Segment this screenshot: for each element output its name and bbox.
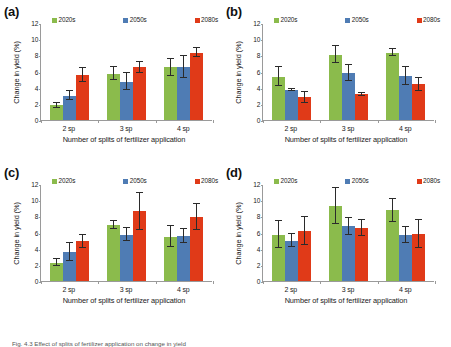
error-bar [170, 226, 171, 247]
legend-item-2050s[interactable]: 2050s [345, 17, 368, 23]
error-bar-cap [402, 242, 409, 243]
legend-label: 2080s [201, 17, 218, 23]
bar-2020s-3sp[interactable] [107, 225, 120, 281]
error-bar-cap [167, 225, 174, 226]
x-axis-tick-labels: 2 sp3 sp4 sp [262, 124, 434, 134]
x-axis-label: Number of splits of fertilizer applicati… [26, 296, 222, 305]
error-bar-cap [193, 229, 200, 230]
bar-slot [386, 185, 399, 281]
bar-slot [164, 24, 177, 120]
bar-groups [41, 185, 212, 281]
error-bar [183, 229, 184, 243]
legend-label: 2020s [59, 17, 76, 23]
legend-item-2050s[interactable]: 2050s [345, 178, 368, 184]
x-axis-label: Number of splits of fertilizer applicati… [248, 135, 444, 144]
bar-slot [412, 185, 425, 281]
bar-slot [355, 185, 368, 281]
error-bar-cap [53, 102, 60, 103]
x-axis-tick-mark [263, 120, 264, 123]
bar-2050s-2sp[interactable] [285, 90, 298, 120]
legend-swatch-icon [417, 179, 422, 184]
x-axis-label: Number of splits of fertilizer applicati… [248, 296, 444, 305]
legend-item-2020s[interactable]: 2020s [274, 178, 297, 184]
bar-groups [263, 24, 434, 120]
error-bar-cap [167, 58, 174, 59]
x-axis-tick-mark [320, 120, 321, 123]
y-axis-tick-label: 0 [257, 118, 261, 125]
legend-swatch-icon [195, 179, 200, 184]
legend-label: 2080s [201, 178, 218, 184]
bar-2080s-3sp[interactable] [355, 94, 368, 120]
error-bar-cap [123, 240, 130, 241]
bar-slot [285, 24, 298, 120]
error-bar-cap [358, 219, 365, 220]
legend-item-2080s[interactable]: 2080s [417, 178, 440, 184]
bar-2020s-3sp[interactable] [329, 55, 342, 120]
bar-slot [298, 24, 311, 120]
bar-slot [133, 185, 146, 281]
figure-container: (a)2020s2050s2080sChange in yield (%)024… [0, 0, 451, 347]
error-bar-cap [301, 216, 308, 217]
error-bar-cap [193, 203, 200, 204]
error-bar [335, 46, 336, 62]
x-axis-tick-label: 4 sp [380, 124, 432, 134]
bar-group-4sp [158, 185, 209, 281]
error-bar [196, 204, 197, 230]
legend-item-2050s[interactable]: 2050s [123, 178, 146, 184]
error-bar [278, 67, 279, 86]
legend-swatch-icon [195, 18, 200, 23]
bar-2050s-3sp[interactable] [120, 235, 133, 281]
error-bar-cap [402, 66, 409, 67]
legend-label: 2050s [130, 17, 147, 23]
bar-2020s-3sp[interactable] [107, 74, 120, 120]
bar-2080s-3sp[interactable] [355, 228, 368, 281]
bar-slot [412, 24, 425, 120]
y-axis-tick-label: 6 [35, 230, 39, 237]
error-bar-cap [180, 55, 187, 56]
y-axis-tick-label: 8 [35, 214, 39, 221]
error-bar-cap [110, 79, 117, 80]
bar-slot [355, 24, 368, 120]
legend-item-2080s[interactable]: 2080s [417, 17, 440, 23]
legend-item-2050s[interactable]: 2050s [123, 17, 146, 23]
error-bar-cap [79, 67, 86, 68]
x-axis-tick-label: 4 sp [158, 285, 210, 295]
legend-item-2020s[interactable]: 2020s [274, 17, 297, 23]
bar-slot [272, 185, 285, 281]
error-bar-cap [332, 62, 339, 63]
bar-group-3sp [101, 24, 152, 120]
legend-item-2080s[interactable]: 2080s [195, 17, 218, 23]
y-axis-tick-label: 12 [253, 182, 260, 189]
bar-group-4sp [380, 24, 431, 120]
bar-group-3sp [101, 185, 152, 281]
x-axis-tick-mark [378, 281, 379, 284]
error-bar-cap [66, 242, 73, 243]
bar-slot [50, 185, 63, 281]
y-axis-tick-label: 2 [35, 263, 39, 270]
legend-item-2080s[interactable]: 2080s [195, 178, 218, 184]
error-bar-cap [79, 81, 86, 82]
error-bar [418, 220, 419, 248]
x-axis-tick-mark [213, 120, 214, 123]
error-bar-cap [358, 95, 365, 96]
error-bar [405, 227, 406, 243]
bar-slot [342, 185, 355, 281]
legend-item-2020s[interactable]: 2020s [52, 17, 75, 23]
bar-group-2sp [44, 24, 95, 120]
error-bar [82, 68, 83, 83]
error-bar [335, 188, 336, 224]
error-bar-cap [332, 223, 339, 224]
y-axis-label: Change in yield (%) [233, 24, 245, 121]
bar-2080s-4sp[interactable] [190, 53, 203, 120]
bar-2020s-4sp[interactable] [386, 53, 399, 120]
legend-label: 2020s [281, 17, 298, 23]
bar-2080s-3sp[interactable] [133, 67, 146, 120]
error-bar-cap [288, 90, 295, 91]
y-axis-tick-label: 2 [35, 102, 39, 109]
legend-item-2020s[interactable]: 2020s [52, 178, 75, 184]
plot-area: 024681012 [262, 185, 434, 282]
plot-area: 024681012 [40, 185, 212, 282]
bar-group-4sp [158, 24, 209, 120]
x-axis-tick-label: 4 sp [158, 124, 210, 134]
bar-slot [76, 185, 89, 281]
